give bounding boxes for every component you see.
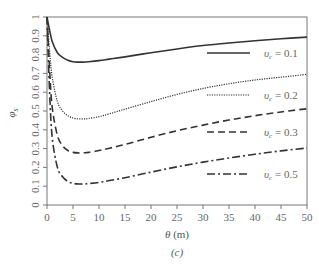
x-tick-label: 35 — [224, 211, 236, 223]
x-tick-label: 10 — [94, 211, 106, 223]
x-axis-label: θ (m) — [165, 228, 189, 241]
y-axis-label: φs — [5, 108, 20, 117]
legend-label: υc = 0.2 — [264, 89, 298, 103]
y-tick-label: 0.8 — [29, 47, 41, 61]
x-tick-label: 50 — [302, 211, 314, 223]
y-tick-label: 0.4 — [29, 122, 41, 136]
y-tick-label: 0.9 — [29, 28, 41, 42]
y-tick-label: 0.3 — [29, 141, 41, 155]
line-chart: 00.10.20.30.40.50.60.70.80.91 0510152025… — [0, 0, 319, 268]
x-axis: 05101520253035404550 — [44, 205, 313, 223]
legend-label: υc = 0.1 — [264, 47, 298, 61]
series-line — [47, 17, 307, 119]
x-tick-label: 5 — [70, 211, 76, 223]
x-tick-label: 15 — [120, 211, 132, 223]
y-tick-label: 0.6 — [29, 85, 41, 99]
x-tick-label: 30 — [198, 211, 210, 223]
x-tick-label: 45 — [276, 211, 288, 223]
legend-label: υc = 0.5 — [264, 168, 298, 182]
y-axis: 00.10.20.30.40.50.60.70.80.91 — [29, 14, 47, 208]
legend-label: υc = 0.3 — [264, 126, 298, 140]
y-tick-label: 0 — [29, 202, 41, 208]
svg-text:φs: φs — [5, 108, 20, 117]
figure-caption: (c) — [171, 246, 184, 259]
x-tick-label: 40 — [250, 211, 262, 223]
y-tick-label: 0.1 — [29, 179, 41, 193]
y-tick-label: 0.5 — [29, 104, 41, 118]
legend: υc = 0.1υc = 0.2υc = 0.3υc = 0.5 — [207, 47, 298, 182]
y-tick-label: 0.2 — [29, 161, 41, 175]
y-tick-label: 1 — [29, 14, 41, 20]
y-tick-label: 0.7 — [29, 66, 41, 80]
x-tick-label: 0 — [44, 211, 50, 223]
x-tick-label: 25 — [172, 211, 184, 223]
x-tick-label: 20 — [146, 211, 158, 223]
